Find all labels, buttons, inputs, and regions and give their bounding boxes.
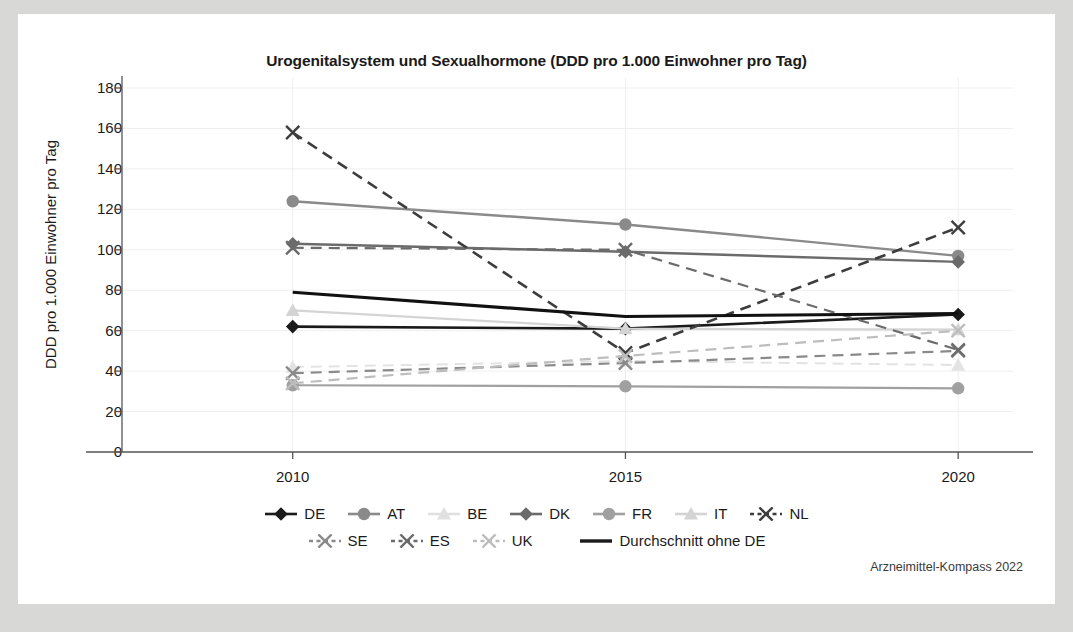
legend-row: SEESUKDurchschnitt ohne DE [18, 527, 1055, 554]
data-point-marker [619, 245, 633, 259]
legend-line-icon [579, 534, 613, 548]
legend-item-fr[interactable]: FR [592, 506, 652, 521]
legend-triangle-icon [427, 507, 461, 521]
data-point-marker [287, 379, 299, 391]
data-point-marker [619, 380, 631, 392]
legend-circle-icon [592, 507, 626, 521]
data-point-marker [603, 507, 615, 519]
legend-label: NL [789, 506, 808, 521]
data-point-marker [358, 507, 370, 519]
legend-circle-icon [347, 507, 381, 521]
series-fr [287, 379, 965, 394]
data-point-marker [286, 320, 300, 334]
legend-item-es[interactable]: ES [390, 533, 450, 548]
screenshot-root: Urogenitalsystem und Sexualhormone (DDD … [0, 0, 1073, 632]
legend-item-de[interactable]: DE [264, 506, 325, 521]
chart-card: Urogenitalsystem und Sexualhormone (DDD … [18, 14, 1055, 604]
legend-diamond-icon [509, 507, 543, 521]
legend-label: SE [348, 533, 368, 548]
legend-row: DEATBEDKFRITNL [18, 500, 1055, 527]
legend-label: FR [632, 506, 652, 521]
legend-item-durchschnitt-ohne-de[interactable]: Durchschnitt ohne DE [579, 533, 765, 548]
legend-label: UK [512, 533, 533, 548]
data-point-marker [951, 358, 965, 371]
legend-item-se[interactable]: SE [308, 533, 368, 548]
chart-legend: DEATBEDKFRITNLSEESUKDurchschnitt ohne DE [18, 500, 1055, 554]
legend-label: IT [714, 506, 727, 521]
legend-item-uk[interactable]: UK [472, 533, 533, 548]
legend-label: ES [430, 533, 450, 548]
legend-cross-icon [472, 534, 506, 548]
legend-label: Durchschnitt ohne DE [619, 533, 765, 548]
data-point-marker [619, 218, 631, 230]
legend-cross-icon [308, 534, 342, 548]
legend-triangle-icon [674, 507, 708, 521]
data-point-marker [519, 507, 533, 521]
data-point-marker [287, 195, 299, 207]
legend-label: DK [549, 506, 570, 521]
legend-cross-icon [390, 534, 424, 548]
legend-diamond-icon [264, 507, 298, 521]
legend-item-at[interactable]: AT [347, 506, 405, 521]
source-note: Arzneimittel-Kompass 2022 [870, 560, 1023, 574]
legend-item-it[interactable]: IT [674, 506, 727, 521]
legend-cross-icon [749, 507, 783, 521]
data-point-marker [275, 507, 289, 521]
legend-item-be[interactable]: BE [427, 506, 487, 521]
legend-item-dk[interactable]: DK [509, 506, 570, 521]
data-point-marker [952, 382, 964, 394]
legend-item-nl[interactable]: NL [749, 506, 808, 521]
legend-label: BE [467, 506, 487, 521]
legend-label: AT [387, 506, 405, 521]
legend-label: DE [304, 506, 325, 521]
